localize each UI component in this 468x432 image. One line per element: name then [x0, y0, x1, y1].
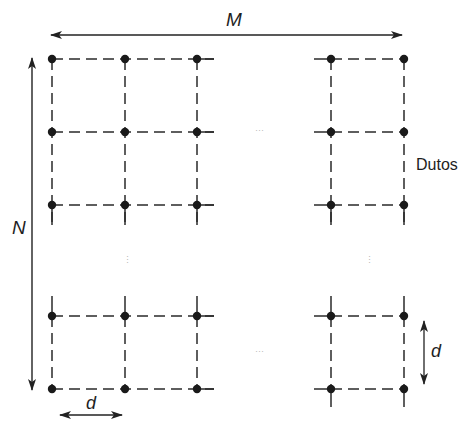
ellipsis-bottom-middle: ···	[255, 347, 264, 356]
horizontal-spacing-label: d	[86, 394, 96, 412]
duct-node	[193, 312, 201, 320]
duct-node	[121, 201, 129, 209]
grid-bottom-right-block	[331, 316, 404, 389]
ducts-label: Dutos	[416, 157, 458, 173]
ellipsis-top-middle: ···	[255, 126, 264, 135]
duct-node	[48, 201, 56, 209]
n-label: N	[12, 218, 26, 237]
duct-node	[193, 201, 201, 209]
duct-node	[400, 201, 408, 209]
grid-top-right-block	[331, 59, 404, 222]
duct-nodes	[48, 55, 408, 393]
grid-stubs-bottom-left	[52, 296, 214, 389]
duct-grid-diagram	[0, 0, 468, 432]
duct-node	[400, 128, 408, 136]
duct-node	[327, 385, 335, 393]
duct-node	[121, 55, 129, 63]
duct-node	[121, 312, 129, 320]
duct-node	[400, 385, 408, 393]
grid-stubs-top-left	[52, 59, 214, 225]
duct-node	[327, 201, 335, 209]
duct-node	[193, 385, 201, 393]
ellipsis-left-middle: ⋮	[123, 256, 132, 265]
duct-node	[121, 128, 129, 136]
duct-node	[400, 55, 408, 63]
duct-node	[193, 128, 201, 136]
duct-node	[327, 312, 335, 320]
duct-node	[121, 385, 129, 393]
duct-node	[193, 55, 201, 63]
duct-node	[48, 128, 56, 136]
m-label: M	[226, 10, 242, 29]
grid-stubs-top-right	[314, 59, 404, 225]
duct-node	[48, 385, 56, 393]
grid-bottom-left-block	[52, 316, 214, 389]
duct-node	[327, 128, 335, 136]
vertical-spacing-label: d	[431, 342, 441, 360]
ellipsis-right-middle: ⋮	[365, 256, 374, 265]
duct-node	[48, 312, 56, 320]
duct-node	[327, 55, 335, 63]
duct-node	[48, 55, 56, 63]
duct-node	[400, 312, 408, 320]
grid-top-left-block	[52, 59, 214, 222]
